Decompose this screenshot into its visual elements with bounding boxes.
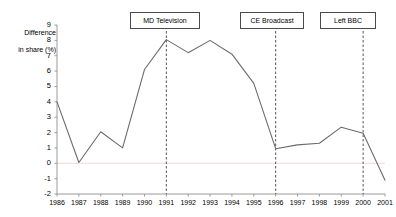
- line-chart: Difference in share (%) 9876543210-1-2 1…: [0, 0, 396, 217]
- data-series-line: [57, 40, 385, 181]
- plot-area: [0, 0, 396, 217]
